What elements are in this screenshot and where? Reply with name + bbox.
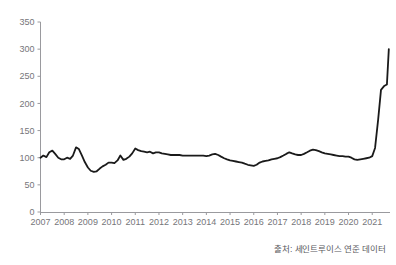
- x-axis-tick-label: 2012: [149, 217, 169, 227]
- y-axis-tick-label: 50: [24, 180, 34, 190]
- chart-figure: 050100150200250300350 200720082009201020…: [0, 0, 396, 265]
- x-axis-tick-label: 2008: [54, 217, 74, 227]
- y-axis-tick-labels: 050100150200250300350: [19, 17, 34, 217]
- y-axis-tick-label: 100: [19, 153, 34, 163]
- data-series-group: [41, 49, 389, 172]
- x-axis-tick-label: 2014: [196, 217, 216, 227]
- y-axis-tick-label: 250: [19, 71, 34, 81]
- x-axis-tick-label: 2016: [244, 217, 264, 227]
- x-axis-tick-label: 2009: [78, 217, 98, 227]
- x-axis-tick-label: 2020: [339, 217, 359, 227]
- x-axis-tick-label: 2007: [30, 217, 50, 227]
- x-axis: 2007200820092010201120122013201420152016…: [30, 212, 390, 227]
- x-axis-tick-label: 2019: [315, 217, 335, 227]
- y-axis: 050100150200250300350: [19, 17, 40, 217]
- y-axis-tick-label: 350: [19, 17, 34, 27]
- x-axis-tick-label: 2011: [126, 217, 145, 227]
- source-note: 출처: 세인트루이스 연준 데이터: [274, 242, 386, 254]
- y-axis-tick-label: 150: [19, 126, 34, 136]
- series-line: [41, 49, 389, 172]
- x-axis-tick-label: 2013: [173, 217, 193, 227]
- y-axis-tick-label: 200: [19, 99, 34, 109]
- x-axis-tick-labels: 2007200820092010201120122013201420152016…: [30, 217, 382, 227]
- x-axis-tick-label: 2021: [362, 217, 382, 227]
- x-axis-tick-label: 2018: [291, 217, 311, 227]
- x-axis-tick-label: 2015: [220, 217, 240, 227]
- x-axis-tick-label: 2010: [102, 217, 122, 227]
- y-axis-tick-label: 0: [29, 207, 34, 217]
- x-axis-tick-label: 2017: [267, 217, 287, 227]
- y-axis-tick-label: 300: [19, 44, 34, 54]
- line-chart-plot: 050100150200250300350 200720082009201020…: [0, 0, 396, 265]
